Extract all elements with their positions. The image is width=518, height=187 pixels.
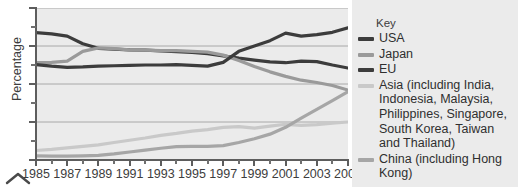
x-tick xyxy=(253,160,255,166)
x-tick xyxy=(285,160,287,166)
x-tick xyxy=(191,160,193,166)
y-tick xyxy=(29,83,36,85)
x-tick-minor xyxy=(82,160,84,164)
y-tick xyxy=(29,121,36,123)
legend-item-label: Japan xyxy=(379,47,413,62)
x-tick-minor xyxy=(238,160,240,164)
y-tick-minor xyxy=(31,26,36,28)
legend-title: Key xyxy=(376,17,396,29)
legend-item: Asia (including India, Indonesia, Malays… xyxy=(358,78,518,151)
legend-item: EU xyxy=(358,62,518,77)
legend-item: Japan xyxy=(358,47,518,62)
caret-icon xyxy=(5,171,35,185)
x-tick xyxy=(160,160,162,166)
y-tick-minor xyxy=(31,102,36,104)
legend-swatch-icon xyxy=(358,53,374,57)
legend-items: USAJapanEUAsia (including India, Indones… xyxy=(358,31,518,182)
legend-item-label: EU xyxy=(379,62,396,77)
x-tick xyxy=(35,160,37,166)
y-axis-title: Percentage xyxy=(10,34,24,104)
x-tick xyxy=(347,160,349,166)
x-tick xyxy=(66,160,68,166)
x-tick xyxy=(316,160,318,166)
x-tick xyxy=(129,160,131,166)
legend: Key USAJapanEUAsia (including India, Ind… xyxy=(352,0,518,187)
legend-item: China (including Hong Kong) xyxy=(358,152,518,181)
x-tick-minor xyxy=(144,160,146,164)
plot-area xyxy=(36,8,348,160)
x-tick xyxy=(97,160,99,166)
legend-item: USA xyxy=(358,31,518,46)
y-tick xyxy=(29,45,36,47)
legend-swatch-icon xyxy=(358,37,374,41)
x-tick xyxy=(222,160,224,166)
chart-figure: 010203040 198519871989199119931995199719… xyxy=(0,0,518,187)
x-tick-minor xyxy=(300,160,302,164)
plot-svg xyxy=(36,8,348,160)
legend-swatch-icon xyxy=(358,84,374,88)
legend-item-label: Asia (including India, Indonesia, Malays… xyxy=(379,78,518,151)
x-tick-minor xyxy=(175,160,177,164)
legend-swatch-icon xyxy=(358,68,374,72)
legend-item-label: China (including Hong Kong) xyxy=(379,152,518,181)
legend-swatch-icon xyxy=(358,158,374,162)
x-tick-minor xyxy=(269,160,271,164)
x-tick-minor xyxy=(331,160,333,164)
legend-item-label: USA xyxy=(379,31,405,46)
x-tick-minor xyxy=(207,160,209,164)
y-tick-minor xyxy=(31,64,36,66)
x-tick-minor xyxy=(51,160,53,164)
x-tick-minor xyxy=(113,160,115,164)
series-lines xyxy=(36,28,348,156)
y-tick-minor xyxy=(31,140,36,142)
y-tick xyxy=(29,7,36,9)
